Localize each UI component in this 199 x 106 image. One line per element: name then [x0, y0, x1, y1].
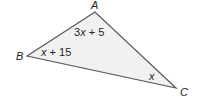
vertex-label-a: A [90, 0, 98, 11]
vertex-label-b: B [16, 50, 23, 62]
triangle-diagram: A B C 3x + 5 x + 15 x [0, 0, 199, 106]
angle-c-expression: x [148, 70, 155, 82]
angle-b-expression: x + 15 [40, 46, 71, 58]
angle-a-expression: 3x + 5 [74, 26, 104, 38]
vertex-label-c: C [180, 86, 188, 98]
